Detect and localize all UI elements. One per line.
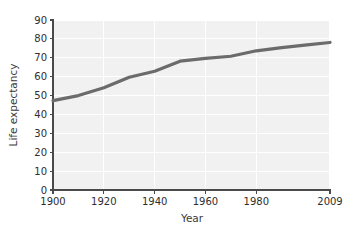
x-tick-labels: 190019201940196019802009 xyxy=(40,196,342,207)
y-tick-label: 80 xyxy=(34,33,47,44)
y-tick-label: 0 xyxy=(41,185,47,196)
x-tick-label: 1980 xyxy=(244,196,269,207)
y-tick-labels: 0102030405060708090 xyxy=(34,15,47,196)
x-tick-label: 2009 xyxy=(317,196,342,207)
y-tick-label: 10 xyxy=(34,166,47,177)
y-tick-label: 70 xyxy=(34,52,47,63)
y-tick-label: 30 xyxy=(34,128,47,139)
y-axis-title: Life expectancy xyxy=(7,64,19,147)
x-tick-label: 1920 xyxy=(91,196,116,207)
x-tick-label: 1940 xyxy=(142,196,167,207)
y-tick-label: 40 xyxy=(34,109,47,120)
y-tick-label: 60 xyxy=(34,71,47,82)
x-axis-title: Year xyxy=(180,212,204,224)
y-tick-label: 90 xyxy=(34,15,47,26)
x-tick-label: 1960 xyxy=(193,196,218,207)
y-tick-label: 50 xyxy=(34,90,47,101)
x-tick-label: 1900 xyxy=(40,196,65,207)
line-chart: 0102030405060708090 19001920194019601980… xyxy=(0,0,344,235)
y-tick-label: 20 xyxy=(34,147,47,158)
chart-canvas: 0102030405060708090 19001920194019601980… xyxy=(0,0,344,235)
